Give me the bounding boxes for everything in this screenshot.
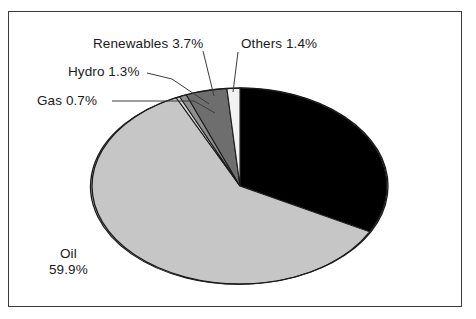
chart-page: Renewables 3.7% Hydro 1.3% Gas 0.7% Othe… — [0, 0, 476, 319]
slice-label-coal-name: Coal — [351, 66, 379, 81]
leader-line-renewables — [203, 51, 214, 96]
slice-label-oil-value: 59.9% — [49, 262, 88, 278]
slice-label-coal-value: 33% — [351, 82, 379, 98]
slice-label-hydro: Hydro 1.3% — [68, 64, 140, 80]
slice-label-coal: Coal 33% — [351, 66, 379, 98]
slice-label-gas: Gas 0.7% — [37, 93, 97, 109]
slice-label-others: Others 1.4% — [241, 36, 317, 52]
slice-label-oil-name: Oil — [60, 246, 77, 261]
slice-label-oil: Oil 59.9% — [49, 246, 88, 278]
slice-label-renewables: Renewables 3.7% — [93, 36, 203, 52]
leader-line-others — [233, 52, 238, 92]
